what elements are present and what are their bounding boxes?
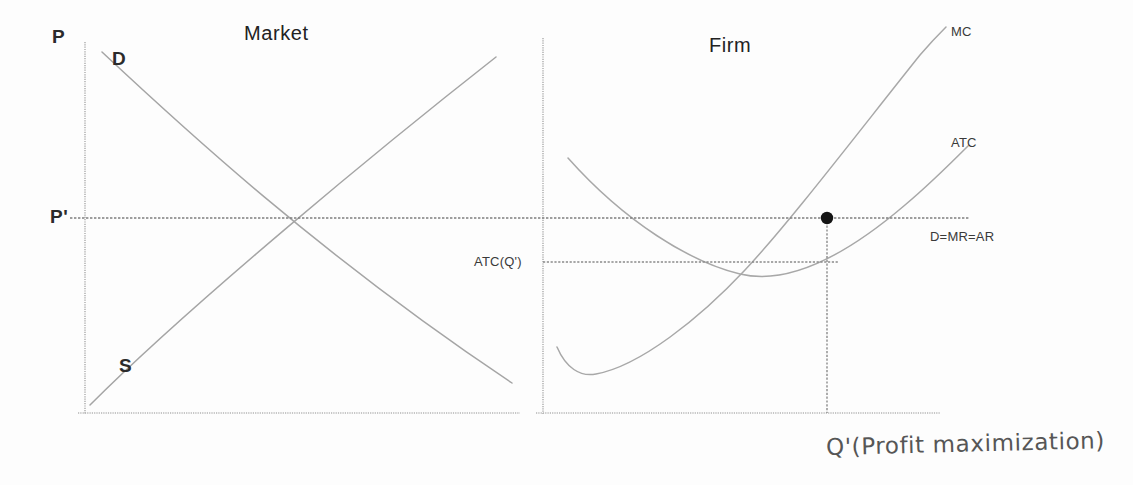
market-curves xyxy=(90,52,512,405)
supply-curve-label: S xyxy=(119,355,132,377)
demand-mr-ar-label: D=MR=AR xyxy=(930,229,994,244)
demand-curve-label: D xyxy=(112,48,126,70)
profit-max-point xyxy=(821,212,833,224)
supply-curve-market xyxy=(90,57,496,405)
firm-panel-title: Firm xyxy=(709,34,751,57)
market-panel-title: Market xyxy=(244,22,309,45)
atc-cost-level-label: ATC(Q') xyxy=(474,254,522,269)
firm-curves xyxy=(557,27,968,375)
mc-curve-label: MC xyxy=(951,24,972,39)
atc-curve xyxy=(568,146,968,276)
market-axes xyxy=(78,42,520,414)
atc-curve-label: ATC xyxy=(951,135,977,150)
price-level-label: P' xyxy=(50,206,68,228)
mc-curve xyxy=(557,27,946,375)
diagram-canvas: P Market D S P' Firm MC ATC D=MR=AR ATC(… xyxy=(0,0,1133,485)
market-y-axis-label: P xyxy=(52,26,65,48)
